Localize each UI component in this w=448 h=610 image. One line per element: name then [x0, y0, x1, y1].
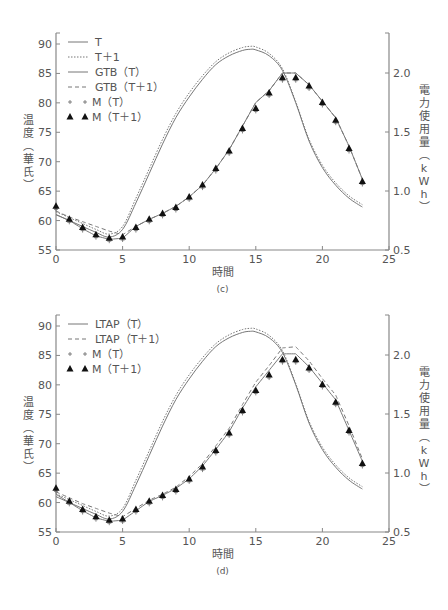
y-right-title-char: W	[419, 457, 430, 470]
y-left-tick-label: 70	[38, 438, 52, 451]
panel-caption: (d)	[216, 566, 229, 576]
y-left-tick-label: 60	[38, 215, 52, 228]
y-right-title-char: ︵	[419, 149, 430, 162]
triangle-marker	[106, 234, 113, 241]
legend-label: M（T＋1）	[92, 363, 148, 376]
y-right-title-char: 使	[419, 392, 430, 405]
triangle-marker	[106, 516, 113, 523]
y-left-tick-label: 60	[38, 497, 52, 510]
y-right-title-char: k	[421, 444, 428, 457]
y-left-tick-label: 55	[38, 526, 52, 539]
legend-label: T	[94, 36, 102, 49]
legend-label: GTB（T）	[95, 66, 146, 79]
triangle-marker	[226, 147, 233, 154]
y-right-title-char: 用	[419, 405, 430, 418]
legend-item: GTB（T＋1）	[68, 81, 164, 94]
triangle-marker	[319, 99, 326, 106]
y-left-tick-label: 85	[38, 349, 52, 362]
y-right-title-char: 電	[419, 366, 430, 379]
triangle-marker	[252, 386, 259, 393]
x-axis-title: 時間	[212, 266, 234, 279]
x-tick-label: 10	[182, 535, 196, 548]
legend-item: T＋1	[68, 51, 120, 64]
y-left-title-char: 温	[23, 396, 34, 409]
y-left-title-char: 温	[23, 114, 34, 127]
panel-d-chart: 051015202555606570758085900.51.01.52.0時間…	[23, 315, 430, 576]
triangle-marker	[186, 193, 193, 200]
y-right-tick-label: 0.5	[393, 526, 411, 539]
y-left-tick-label: 80	[38, 379, 52, 392]
y-right-title-char: h	[421, 470, 428, 483]
triangle-icon	[67, 365, 74, 372]
y-left-title-char: ︶	[23, 179, 34, 192]
y-right-title-char: ︶	[419, 201, 430, 214]
legend-item: T	[68, 36, 102, 49]
y-left-tick-label: 90	[38, 320, 52, 333]
triangle-icon	[67, 113, 74, 120]
triangle-marker	[66, 215, 73, 222]
y-left-tick-label: 65	[38, 467, 52, 480]
y-right-title-char: 使	[419, 110, 430, 123]
triangle-marker	[239, 124, 246, 131]
x-tick-label: 20	[315, 535, 329, 548]
x-tick-label: 10	[182, 253, 196, 266]
y-left-title-char: ︶	[23, 461, 34, 474]
y-right-title-char: 力	[419, 97, 430, 110]
y-right-tick-label: 1.0	[393, 467, 411, 480]
x-tick-label: 0	[53, 535, 60, 548]
legend-label: M（T）	[92, 348, 130, 361]
triangle-marker	[345, 145, 352, 152]
y-left-title-char: 華	[23, 435, 34, 448]
x-tick-label: 5	[119, 253, 126, 266]
legend-item: M（T＋1）	[67, 363, 149, 376]
panel-c-chart: 051015202555606570758085900.51.01.52.0時間…	[23, 33, 430, 294]
y-left-title-char: 度	[23, 408, 34, 422]
x-axis-title: 時間	[212, 548, 234, 561]
legend-label: LTAP（T）	[95, 318, 148, 331]
legend-label: T＋1	[94, 51, 120, 64]
y-right-tick-label: 1.0	[393, 185, 411, 198]
y-right-tick-label: 0.5	[393, 244, 411, 257]
y-right-tick-label: 1.5	[393, 126, 411, 139]
triangle-marker	[332, 398, 339, 405]
legend-item: LTAP（T）	[68, 318, 148, 331]
panel-caption: (c)	[217, 284, 229, 294]
legend-label: LTAP（T＋1）	[95, 333, 166, 346]
y-left-title-char: 度	[23, 126, 34, 140]
y-right-title-char: h	[421, 188, 428, 201]
x-tick-label: 15	[249, 535, 263, 548]
triangle-marker	[332, 116, 339, 123]
triangle-marker	[359, 178, 366, 185]
y-left-title-char: 氏	[23, 166, 34, 179]
legend-item: M（T）	[68, 348, 130, 361]
triangle-icon	[82, 365, 89, 372]
plus-icon	[83, 352, 87, 356]
x-tick-label: 5	[119, 535, 126, 548]
triangle-marker	[359, 460, 366, 467]
y-left-tick-label: 75	[38, 126, 52, 139]
y-right-title-char: W	[419, 175, 430, 188]
y-right-title-char: 量	[419, 418, 430, 431]
y-left-tick-label: 65	[38, 185, 52, 198]
series-line-solid	[56, 354, 362, 522]
plus-icon	[68, 352, 72, 356]
y-right-tick-label: 2.0	[393, 349, 411, 362]
y-right-tick-label: 2.0	[393, 67, 411, 80]
y-left-tick-label: 75	[38, 408, 52, 421]
triangle-marker	[266, 371, 273, 378]
legend-item: M（T＋1）	[67, 111, 149, 124]
x-tick-label: 15	[249, 253, 263, 266]
y-right-title-char: 電	[419, 84, 430, 97]
y-right-title-char: 量	[419, 136, 430, 149]
y-right-title-char: 力	[419, 379, 430, 392]
legend-label: M（T＋1）	[92, 111, 148, 124]
y-left-title-char: ︵	[23, 422, 34, 435]
y-left-tick-label: 80	[38, 97, 52, 110]
y-left-title-char: 華	[23, 153, 34, 166]
legend-item: GTB（T）	[68, 66, 146, 79]
y-right-title-char: 用	[419, 123, 430, 136]
y-right-title-char: k	[421, 162, 428, 175]
legend-label: M（T）	[92, 96, 130, 109]
x-tick-label: 0	[53, 253, 60, 266]
plus-icon	[83, 100, 87, 104]
